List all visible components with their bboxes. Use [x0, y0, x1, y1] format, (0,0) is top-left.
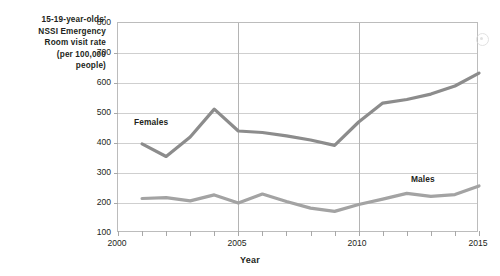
x-tick-label-2005: 2005 [217, 239, 257, 248]
y-tick-label-600: 600 [85, 78, 111, 87]
series-line-females [142, 73, 479, 156]
y-axis-title-line-5: people) [2, 60, 106, 72]
plot-area [117, 22, 478, 232]
x-tick-label-2010: 2010 [337, 239, 377, 248]
y-tick-label-100: 100 [85, 228, 111, 237]
series-label-males: Males [410, 174, 436, 184]
x-axis-title: Year [0, 255, 500, 265]
y-tick-label-800: 800 [85, 18, 111, 27]
x-tick-label-2015: 2015 [458, 239, 498, 248]
y-tick-label-400: 400 [85, 138, 111, 147]
y-axis-title-line-2: NSSI Emergency [2, 26, 106, 38]
y-tick-label-300: 300 [85, 168, 111, 177]
series-plot [118, 23, 479, 233]
x-tick-label-2000: 2000 [97, 239, 137, 248]
line-chart: 15-19-year-olds' NSSI Emergency Room vis… [0, 0, 500, 276]
page-artifact-mark [476, 33, 489, 46]
y-tick-label-500: 500 [85, 108, 111, 117]
series-label-females: Females [133, 117, 169, 127]
series-line-males [142, 186, 479, 212]
y-tick-label-200: 200 [85, 198, 111, 207]
x-tick-mark-2015 [479, 231, 480, 236]
y-tick-label-700: 700 [85, 48, 111, 57]
